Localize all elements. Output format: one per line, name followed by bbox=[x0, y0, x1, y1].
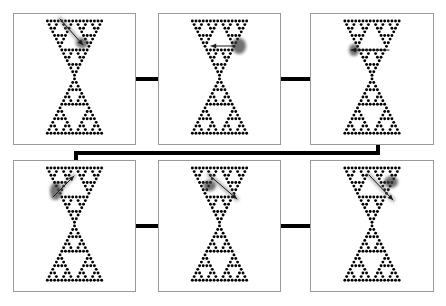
wrap-connector-svg bbox=[0, 0, 446, 306]
figure-canvas bbox=[0, 0, 446, 306]
connector-panel3-panel4-wrap bbox=[76, 145, 378, 160]
